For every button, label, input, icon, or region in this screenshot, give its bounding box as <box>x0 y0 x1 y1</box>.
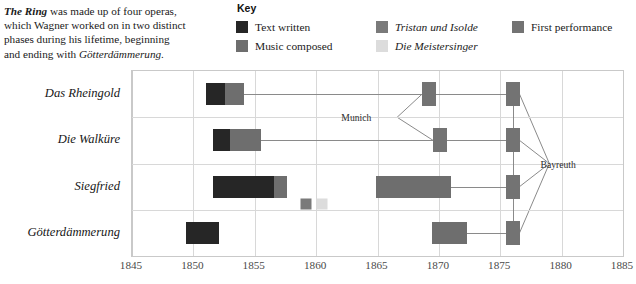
legend-swatch-icon <box>236 21 248 33</box>
bar-music-composed <box>274 176 286 198</box>
row-divider <box>132 210 623 211</box>
legend-swatch-icon <box>236 40 248 52</box>
legend-item-label: Tristan und Isolde <box>395 21 478 33</box>
x-tick-label: 1865 <box>365 259 387 271</box>
intro-paragraph: The Ring was made up of four operas, whi… <box>4 4 226 61</box>
bar-music-composed <box>225 83 243 105</box>
bar-text-written <box>206 83 226 105</box>
intro-line-4-emphasis: Götterdämmerung. <box>79 48 164 60</box>
timeline-connector <box>244 94 513 95</box>
intro-rest-1: was made up of four operas, <box>47 5 177 17</box>
legend-swatch-icon <box>512 21 524 33</box>
brace-path <box>520 164 550 233</box>
intro-line-4a: and ending with <box>4 48 79 60</box>
legend-item-text-written[interactable]: Text written <box>236 17 333 36</box>
x-tick-label: 1870 <box>427 259 449 271</box>
brace-path <box>520 94 550 163</box>
x-tick-label: 1845 <box>120 259 142 271</box>
row-label-das-rheingold: Das Rheingold <box>45 86 120 101</box>
timeline-connector <box>261 140 513 141</box>
row-label-g-tterd-mmerung: Götterdämmerung <box>27 224 120 239</box>
row-divider <box>132 117 623 118</box>
bar-text-written <box>213 129 230 151</box>
first-performance-marker-munich <box>433 128 447 152</box>
legend-swatch-icon <box>376 21 388 33</box>
legend: Key Text writtenMusic composedTristan un… <box>236 2 634 57</box>
first-performance-marker-bayreuth <box>506 221 520 245</box>
timeline-connector <box>451 187 512 188</box>
first-performance-marker-bayreuth <box>506 82 520 106</box>
legend-column-2: Tristan und IsoldeDie Meistersinger <box>376 17 478 55</box>
legend-items: Text writtenMusic composedTristan und Is… <box>236 17 634 57</box>
intro-line-3: phases during his lifetime, beginning <box>4 33 170 45</box>
intro-lead: The Ring <box>4 5 47 17</box>
bar-music-composed <box>376 176 451 198</box>
legend-item-label: Music composed <box>255 40 333 52</box>
first-performance-marker-bayreuth <box>506 175 520 199</box>
x-tick-label: 1850 <box>181 259 203 271</box>
intro-line-2: which Wagner worked on in two distinct <box>4 19 186 31</box>
legend-item-first-performance[interactable]: First performance <box>512 17 612 36</box>
x-tick-label: 1885 <box>611 259 633 271</box>
venue-annotation-bayreuth: Bayreuth <box>541 158 576 169</box>
bar-text-written <box>213 176 274 198</box>
bar-text-written <box>186 222 219 244</box>
x-tick-label: 1880 <box>549 259 571 271</box>
legend-item-die-meistersinger[interactable]: Die Meistersinger <box>376 36 478 55</box>
x-tick-label: 1860 <box>304 259 326 271</box>
opera-marker-tristan-und-isolde <box>300 198 311 209</box>
legend-swatch-icon <box>376 40 388 52</box>
opera-marker-die-meistersinger <box>316 198 327 209</box>
row-labels: Das RheingoldDie WalküreSiegfriedGötterd… <box>0 70 128 257</box>
row-label-siegfried: Siegfried <box>75 178 120 193</box>
timeline-plot: MunichBayreuth <box>131 70 624 257</box>
venue-annotation-munich: Munich <box>341 112 371 123</box>
x-tick-label: 1855 <box>243 259 265 271</box>
row-label-die-walk-re: Die Walküre <box>58 132 120 147</box>
bar-music-composed <box>432 222 468 244</box>
legend-item-label: Die Meistersinger <box>395 40 478 52</box>
legend-column-3: First performance <box>512 17 612 36</box>
legend-column-1: Text writtenMusic composed <box>236 17 333 55</box>
first-performance-marker-bayreuth <box>506 128 520 152</box>
first-performance-marker-munich <box>422 82 436 106</box>
legend-item-label: Text written <box>255 21 310 33</box>
legend-title: Key <box>237 2 634 14</box>
legend-item-music-composed[interactable]: Music composed <box>236 36 333 55</box>
x-tick-label: 1875 <box>488 259 510 271</box>
bayreuth-spine <box>513 94 514 233</box>
x-axis-ticks: 184518501855186018651870187518801885 <box>131 259 624 279</box>
x-gridline <box>623 71 624 256</box>
legend-item-tristan-und-isolde[interactable]: Tristan und Isolde <box>376 17 478 36</box>
bar-music-composed <box>230 129 261 151</box>
infographic-root: The Ring was made up of four operas, whi… <box>0 0 636 284</box>
legend-item-label: First performance <box>531 21 612 33</box>
